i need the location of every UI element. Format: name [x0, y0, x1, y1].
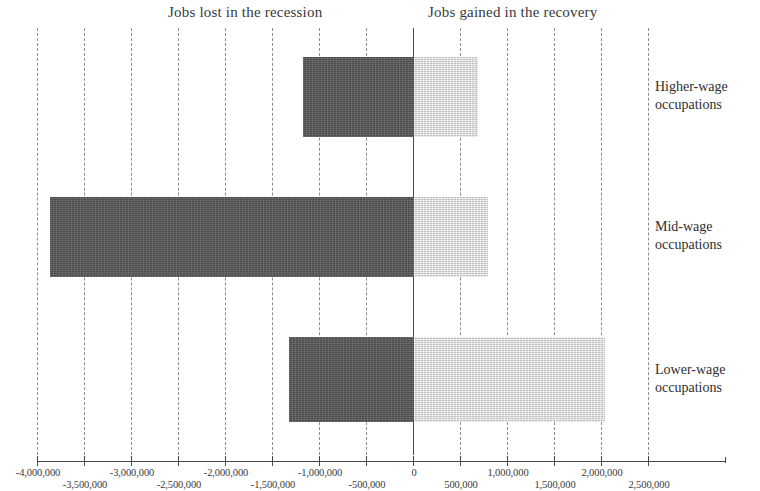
category-label-line2: occupations	[655, 379, 760, 397]
category-label-line2: occupations	[655, 96, 760, 114]
category-label-line2: occupations	[655, 236, 760, 254]
category-label: Lower-wageoccupations	[655, 361, 760, 397]
axis-tick	[84, 456, 85, 466]
axis-tick-label: -3,500,000	[63, 479, 108, 490]
gridline	[37, 28, 38, 455]
category-label: Higher-wageoccupations	[655, 78, 760, 114]
x-axis-line	[38, 461, 725, 462]
axis-tick-label: 1,000,000	[487, 467, 528, 478]
bar-gain	[414, 337, 605, 422]
bar-gain	[414, 197, 488, 277]
axis-tick	[554, 456, 555, 466]
axis-tick-label: 0	[411, 467, 416, 478]
axis-tick	[319, 456, 320, 466]
category-label-line1: Lower-wage	[655, 361, 760, 379]
axis-tick-label: 2,500,000	[628, 479, 669, 490]
bar-loss	[50, 197, 414, 277]
axis-tick	[507, 456, 508, 466]
axis-tick	[37, 456, 38, 466]
bar-gain	[414, 57, 478, 137]
bar-loss	[289, 337, 414, 422]
axis-tick	[366, 456, 367, 466]
category-label-line1: Mid-wage	[655, 218, 760, 236]
category-label-line1: Higher-wage	[655, 78, 760, 96]
axis-tick-label: -500,000	[349, 479, 386, 490]
plot-area: Higher-wageoccupationsMid-wageoccupation…	[0, 28, 760, 455]
axis-tick	[648, 456, 649, 466]
axis-tick	[178, 456, 179, 466]
axis-tick	[225, 456, 226, 466]
axis-tick	[413, 456, 414, 466]
jobs-bar-chart: Jobs lost in the recession Jobs gained i…	[0, 0, 760, 491]
panel-heading-jobs-lost: Jobs lost in the recession	[168, 4, 322, 21]
panel-heading-jobs-gained: Jobs gained in the recovery	[428, 4, 598, 21]
axis-tick	[601, 456, 602, 466]
axis-tick	[460, 456, 461, 466]
axis-tick-label: -1,500,000	[251, 479, 296, 490]
axis-tick	[272, 456, 273, 466]
axis-tick-label: -3,000,000	[110, 467, 155, 478]
axis-tick-label: 500,000	[444, 479, 477, 490]
axis-tick-label: 2,000,000	[581, 467, 622, 478]
axis-tick-label: -2,500,000	[157, 479, 202, 490]
gridline	[648, 28, 649, 455]
axis-tick-label: -4,000,000	[16, 467, 61, 478]
axis-tick-label: 1,500,000	[534, 479, 575, 490]
bar-loss	[303, 57, 414, 137]
axis-tick-label: -1,000,000	[298, 467, 343, 478]
x-axis: -4,000,000-3,500,000-3,000,000-2,500,000…	[0, 455, 760, 491]
axis-tick	[131, 456, 132, 466]
category-label: Mid-wageoccupations	[655, 218, 760, 254]
axis-tick-label: -2,000,000	[204, 467, 249, 478]
